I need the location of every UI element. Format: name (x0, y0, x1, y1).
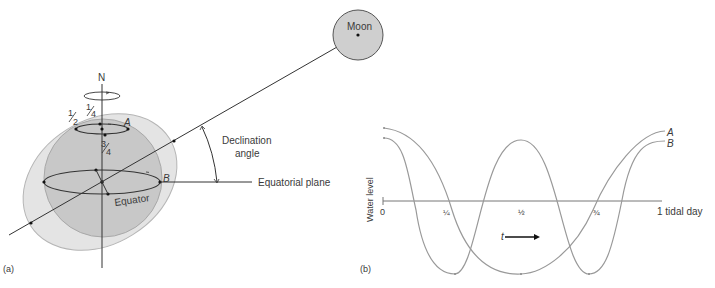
fraction-quarter: 1 4 (86, 102, 96, 119)
panel-a-label: (a) (3, 264, 14, 274)
time-label: t (501, 231, 505, 242)
panel-b-tide-curves: 0 ¼ ½ ¾ 1 tidal day A B Water level t (b… (360, 127, 703, 275)
point-b-label: B (163, 173, 170, 184)
panel-a-earth-moon-diagram: Moon N A B Equator Declination angle Equ… (0, 10, 383, 278)
tide-figure: Moon N A B Equator Declination angle Equ… (0, 0, 715, 288)
x-tick-0: 0 (380, 207, 385, 217)
equatorial-plane-label: Equatorial plane (258, 177, 331, 188)
point-a-label: A (123, 117, 131, 128)
declination-label-line2: angle (235, 148, 260, 159)
panel-b-label: (b) (360, 264, 371, 274)
declination-label-line1: Declination (222, 135, 271, 146)
x-tick-three-quarter: ¾ (593, 208, 600, 217)
earth-sphere (44, 119, 162, 237)
series-label-b: B (667, 138, 674, 149)
series-label-a: A (666, 127, 674, 138)
curve-b (384, 138, 665, 274)
svg-text:2: 2 (73, 117, 78, 127)
svg-text:4: 4 (106, 147, 111, 157)
moon-label: Moon (347, 21, 372, 32)
fraction-half: 1 2 (68, 108, 78, 127)
x-tick-half: ½ (518, 208, 525, 217)
declination-arc (202, 127, 217, 182)
north-label: N (98, 72, 105, 83)
svg-text:4: 4 (91, 109, 96, 119)
x-tick-one-tidal-day: 1 tidal day (657, 206, 703, 217)
x-tick-quarter: ¼ (443, 208, 450, 217)
y-axis-label: Water level (365, 177, 375, 222)
